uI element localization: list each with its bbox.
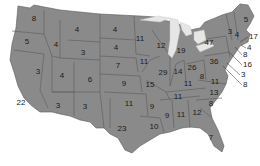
state-label-mi: 19 xyxy=(177,47,186,55)
state-label-fl: 7 xyxy=(209,134,213,142)
state-label-id: 4 xyxy=(54,41,58,49)
state-label-ut: 4 xyxy=(60,72,64,80)
state-label-nd: 4 xyxy=(113,26,117,34)
state-label-nv: 3 xyxy=(36,68,40,76)
state-label-tn: 11 xyxy=(174,93,182,101)
state-label-ca: 22 xyxy=(17,99,26,107)
state-label-ks: 9 xyxy=(122,80,126,88)
state-label-sc: 8 xyxy=(209,100,213,108)
state-label-ms: 9 xyxy=(165,112,169,120)
state-label-ia: 11 xyxy=(140,58,148,66)
state-label-ok: 11 xyxy=(125,100,133,108)
state-label-pa: 36 xyxy=(210,58,219,66)
us-map xyxy=(0,0,260,166)
state-label-vt: 3 xyxy=(228,28,232,36)
state-label-ga: 12 xyxy=(193,109,202,117)
state-label-oh: 26 xyxy=(188,64,197,72)
state-label-ar: 9 xyxy=(150,103,154,111)
state-label-nc: 13 xyxy=(210,89,219,97)
callout-label-nj: 16 xyxy=(243,61,252,69)
state-label-me: 5 xyxy=(244,16,248,24)
state-label-ne: 7 xyxy=(116,62,120,70)
state-label-mn: 11 xyxy=(136,35,144,43)
leader-line-de xyxy=(227,63,240,75)
state-label-mt: 4 xyxy=(75,26,79,34)
callout-label-ct: 8 xyxy=(243,51,247,59)
state-label-or: 5 xyxy=(25,38,29,46)
state-label-az: 3 xyxy=(56,102,60,110)
state-label-nm: 3 xyxy=(83,103,87,111)
callout-label-md: 8 xyxy=(243,81,247,89)
state-label-wy: 3 xyxy=(81,49,85,57)
state-label-sd: 4 xyxy=(114,44,118,52)
state-label-il: 29 xyxy=(159,69,168,77)
state-label-wv: 8 xyxy=(200,73,204,81)
callout-label-de: 3 xyxy=(241,71,245,79)
state-label-ny: 47 xyxy=(205,39,214,47)
state-label-va: 11 xyxy=(211,78,219,86)
state-label-in: 14 xyxy=(174,68,183,76)
leader-line-nj xyxy=(230,53,242,65)
state-label-wa: 8 xyxy=(32,15,36,23)
state-label-tx: 23 xyxy=(118,125,127,133)
callout-label-ma: 17 xyxy=(249,33,258,41)
callout-label-ri: 4 xyxy=(247,44,251,52)
state-label-mo: 15 xyxy=(146,81,155,89)
state-label-wi: 12 xyxy=(157,42,166,50)
state-label-co: 6 xyxy=(88,76,92,84)
state-label-ky: 11 xyxy=(184,80,192,88)
state-label-la: 10 xyxy=(150,123,159,131)
leader-line-ri xyxy=(241,45,246,48)
state-label-al: 11 xyxy=(177,111,185,119)
state-label-nh: 4 xyxy=(235,31,239,39)
